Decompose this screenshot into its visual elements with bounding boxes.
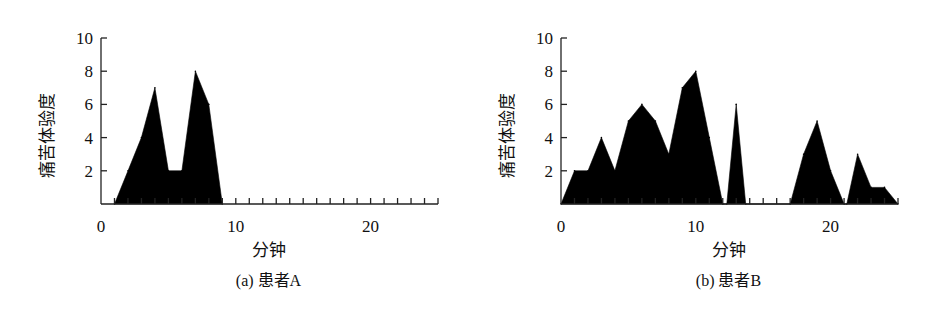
y-tick-label: 10 bbox=[76, 29, 93, 48]
x-tick-label: 20 bbox=[822, 217, 839, 236]
data-point bbox=[154, 87, 156, 89]
x-tick-label: 10 bbox=[227, 217, 244, 236]
area-series-0 bbox=[115, 71, 223, 204]
x-tick-label: 20 bbox=[362, 217, 379, 236]
data-point bbox=[614, 170, 616, 172]
y-tick-label: 6 bbox=[85, 95, 94, 114]
data-point bbox=[857, 153, 859, 155]
y-tick-label: 8 bbox=[85, 62, 94, 81]
area-layer bbox=[114, 70, 223, 204]
x-axis-title: 分钟 bbox=[712, 240, 746, 260]
y-axis-title: 痛苦体验度 bbox=[497, 93, 517, 178]
y-tick-label: 6 bbox=[545, 95, 554, 114]
y-axis-title: 痛苦体验度 bbox=[37, 93, 57, 178]
data-point bbox=[587, 170, 589, 172]
data-point bbox=[574, 170, 576, 172]
x-tick-label: 0 bbox=[557, 217, 566, 236]
data-point bbox=[830, 170, 832, 172]
data-point bbox=[668, 153, 670, 155]
chart-panel-a: 246810 01020 痛苦体验度 分钟 (a) 患者A bbox=[37, 29, 438, 290]
y-tick-labels: 246810 bbox=[536, 29, 554, 181]
data-point bbox=[655, 120, 657, 122]
x-tick-labels: 01020 bbox=[97, 217, 379, 236]
chart-caption: (b) 患者B bbox=[696, 272, 761, 290]
data-point bbox=[709, 137, 711, 139]
figure: 246810 01020 痛苦体验度 分钟 (a) 患者A 246810 010… bbox=[0, 0, 925, 314]
y-tick-label: 2 bbox=[85, 162, 94, 181]
data-point bbox=[208, 104, 210, 106]
y-tick-label: 10 bbox=[536, 29, 553, 48]
data-point bbox=[168, 170, 170, 172]
data-point bbox=[884, 187, 886, 189]
x-tick-label: 10 bbox=[687, 217, 704, 236]
y-tick-label: 8 bbox=[545, 62, 554, 81]
data-point bbox=[870, 187, 872, 189]
data-point bbox=[682, 87, 684, 89]
data-point bbox=[816, 120, 818, 122]
data-point bbox=[601, 137, 603, 139]
data-point bbox=[735, 104, 737, 106]
data-point bbox=[695, 70, 697, 72]
x-axis-title: 分钟 bbox=[252, 240, 286, 260]
data-point bbox=[127, 170, 129, 172]
data-point bbox=[641, 104, 643, 106]
data-point bbox=[628, 120, 630, 122]
y-tick-label: 4 bbox=[545, 129, 554, 148]
data-point bbox=[141, 137, 143, 139]
data-point bbox=[195, 70, 197, 72]
data-point bbox=[803, 153, 805, 155]
x-tick-label: 0 bbox=[97, 217, 106, 236]
chart-panel-b: 246810 01020 痛苦体验度 分钟 (b) 患者B bbox=[497, 29, 899, 290]
y-tick-label: 2 bbox=[545, 162, 554, 181]
chart-caption: (a) 患者A bbox=[236, 272, 302, 290]
y-tick-labels: 246810 bbox=[76, 29, 94, 181]
area-series-0 bbox=[561, 71, 898, 204]
y-tick-label: 4 bbox=[85, 129, 94, 148]
data-point bbox=[181, 170, 183, 172]
area-layer bbox=[560, 70, 899, 204]
x-tick-labels: 01020 bbox=[557, 217, 839, 236]
